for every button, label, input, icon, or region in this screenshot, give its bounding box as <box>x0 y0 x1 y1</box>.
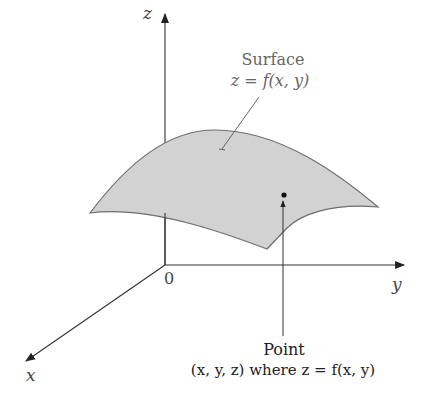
surface-equation: z = f(x, y) <box>231 71 310 90</box>
point-description: (x, y, z) where z = f(x, y) <box>191 361 375 379</box>
point-title: Point <box>263 340 305 359</box>
surface-title: Surface <box>242 50 305 69</box>
point-marker <box>281 192 286 197</box>
surface-patch <box>90 130 378 249</box>
surface-diagram <box>0 0 421 399</box>
origin-label: 0 <box>164 269 174 288</box>
x-axis <box>26 265 165 361</box>
z-axis-label: z <box>143 3 152 23</box>
y-axis-label: y <box>392 274 402 294</box>
x-axis-label: x <box>26 365 36 385</box>
